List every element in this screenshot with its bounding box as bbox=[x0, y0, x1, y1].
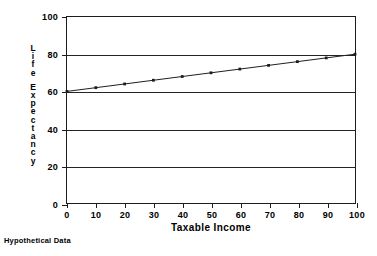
gridline-y-80 bbox=[67, 55, 355, 56]
y-axis-title-word-1: Expectancy bbox=[25, 83, 41, 165]
x-tick-label-30: 30 bbox=[149, 210, 160, 220]
chart-caption: Hypothetical Data bbox=[4, 236, 71, 245]
x-tick-label-90: 90 bbox=[323, 210, 334, 220]
x-tick-label-20: 20 bbox=[120, 210, 131, 220]
y-tick-label-20: 20 bbox=[47, 162, 58, 172]
plot-area: 0204060801000102030405060708090100 bbox=[66, 16, 356, 204]
x-tick-100 bbox=[357, 203, 358, 208]
data-point-marker bbox=[238, 68, 241, 71]
x-tick-40 bbox=[183, 203, 184, 208]
x-tick-label-60: 60 bbox=[236, 210, 247, 220]
x-tick-label-80: 80 bbox=[294, 210, 305, 220]
series-line-chart bbox=[67, 17, 355, 203]
y-tick-label-100: 100 bbox=[42, 12, 58, 22]
y-tick-100 bbox=[62, 17, 67, 18]
x-tick-label-40: 40 bbox=[178, 210, 189, 220]
x-tick-50 bbox=[212, 203, 213, 208]
data-point-marker bbox=[325, 57, 328, 60]
x-tick-label-10: 10 bbox=[91, 210, 102, 220]
x-tick-90 bbox=[328, 203, 329, 208]
y-tick-label-80: 80 bbox=[47, 50, 58, 60]
y-tick-40 bbox=[62, 130, 67, 131]
y-axis-title-char: e bbox=[25, 69, 41, 77]
x-tick-60 bbox=[241, 203, 242, 208]
x-tick-0 bbox=[67, 203, 68, 208]
x-tick-10 bbox=[96, 203, 97, 208]
y-tick-20 bbox=[62, 167, 67, 168]
chart-figure: 0204060801000102030405060708090100 Taxab… bbox=[0, 0, 377, 256]
data-point-marker bbox=[181, 75, 184, 78]
data-point-marker bbox=[267, 64, 270, 67]
y-axis-title-word-0: Life bbox=[25, 44, 41, 77]
x-tick-20 bbox=[125, 203, 126, 208]
x-tick-70 bbox=[270, 203, 271, 208]
data-point-marker bbox=[296, 60, 299, 63]
data-point-marker bbox=[152, 79, 155, 82]
x-tick-80 bbox=[299, 203, 300, 208]
data-point-marker bbox=[210, 71, 213, 74]
gridline-y-60 bbox=[67, 92, 355, 93]
x-tick-label-50: 50 bbox=[207, 210, 218, 220]
y-tick-label-60: 60 bbox=[47, 87, 58, 97]
x-axis-title: Taxable Income bbox=[66, 222, 356, 233]
y-axis-title: LifeExpectancy bbox=[25, 44, 41, 165]
y-tick-60 bbox=[62, 92, 67, 93]
x-tick-label-100: 100 bbox=[349, 210, 365, 220]
x-tick-label-70: 70 bbox=[265, 210, 276, 220]
x-tick-label-0: 0 bbox=[64, 210, 69, 220]
x-tick-30 bbox=[154, 203, 155, 208]
y-axis-title-char: y bbox=[25, 157, 41, 165]
y-tick-label-40: 40 bbox=[47, 125, 58, 135]
gridline-y-20 bbox=[67, 167, 355, 168]
y-tick-80 bbox=[62, 55, 67, 56]
y-tick-label-0: 0 bbox=[53, 200, 58, 210]
data-point-marker bbox=[94, 86, 97, 89]
data-point-marker bbox=[123, 83, 126, 86]
gridline-y-40 bbox=[67, 130, 355, 131]
